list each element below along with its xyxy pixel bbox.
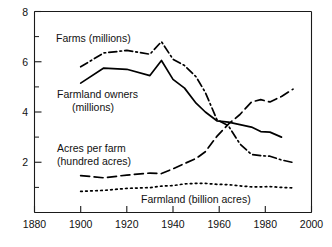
annotation-farmland: Farmland (billion acres) — [141, 193, 251, 205]
chart-container: 8 6 4 2 1880 1900 1920 1940 1960 1980 20… — [0, 0, 332, 247]
y-tick-label-4: 4 — [22, 106, 28, 118]
x-tick-label-1940: 1940 — [161, 218, 185, 230]
annotation-farmland-owners-line2: (millions) — [72, 101, 114, 113]
x-tick-label-1980: 1980 — [254, 218, 278, 230]
y-tick-label-8: 8 — [22, 6, 28, 18]
chart-background — [0, 0, 332, 247]
x-tick-label-1960: 1960 — [208, 218, 232, 230]
x-tick-label-2000: 2000 — [300, 218, 324, 230]
x-tick-label-1900: 1900 — [69, 218, 93, 230]
y-tick-label-2: 2 — [22, 156, 28, 168]
x-tick-label-1920: 1920 — [115, 218, 139, 230]
annotation-acres-per-farm-line2: (hundred acres) — [57, 155, 131, 167]
y-tick-label-6: 6 — [22, 56, 28, 68]
x-tick-label-1880: 1880 — [23, 218, 47, 230]
annotation-farmland-owners-line1: Farmland owners — [57, 88, 138, 100]
line-chart: 8 6 4 2 1880 1900 1920 1940 1960 1980 20… — [0, 0, 332, 247]
annotation-farms: Farms (millions) — [56, 32, 131, 44]
annotation-acres-per-farm-line1: Acres per farm — [57, 142, 126, 154]
